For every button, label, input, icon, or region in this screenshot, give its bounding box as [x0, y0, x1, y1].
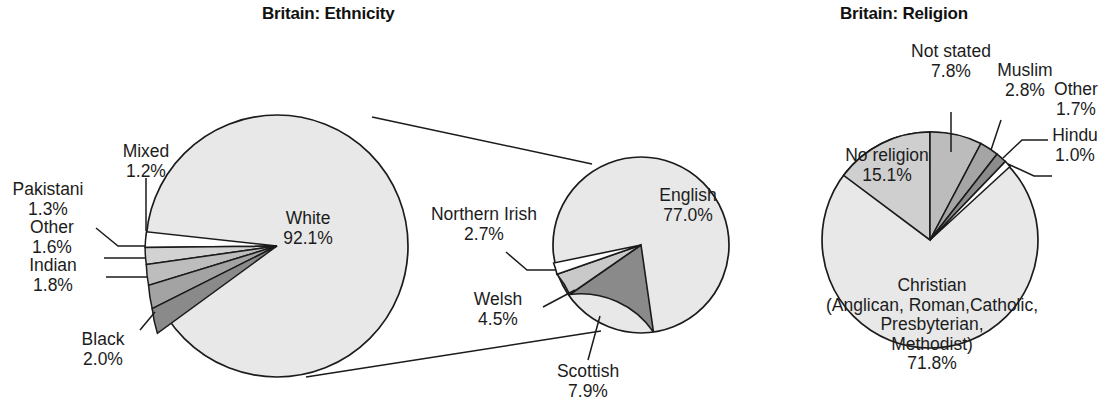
chart-title-religion: Britain: Religion [840, 4, 968, 24]
explosion-connector-top [372, 117, 592, 164]
label-white-value: 92.1% [260, 229, 356, 249]
label-northern-irish: Northern Irish 2.7% [410, 205, 558, 244]
label-black-text: Black [82, 329, 125, 349]
label-mixed-value: 1.2% [94, 162, 198, 182]
label-indian: Indian 1.8% [4, 256, 102, 295]
figure-canvas: Britain: Ethnicity Britain: Religion Mix… [0, 0, 1108, 420]
label-pakistani: Pakistani 1.3% [0, 180, 100, 219]
label-muslim-text: Muslim [997, 60, 1052, 80]
label-no-religion-value: 15.1% [822, 166, 952, 186]
leader-muslim [991, 120, 1001, 150]
label-mixed: Mixed 1.2% [94, 142, 198, 181]
label-other-religion: Other 1.7% [1044, 80, 1108, 119]
label-other-ethnicity-text: Other [30, 217, 74, 237]
label-scottish-text: Scottish [557, 361, 619, 381]
label-mixed-text: Mixed [123, 141, 170, 161]
chart-title-ethnicity: Britain: Ethnicity [262, 4, 394, 24]
label-welsh-value: 4.5% [454, 310, 542, 330]
label-christian: Christian (Anglican, Roman,Catholic, Pre… [820, 276, 1044, 374]
label-hindu-value: 1.0% [1042, 146, 1108, 166]
label-other-ethnicity: Other 1.6% [4, 218, 100, 257]
label-english: English 77.0% [640, 186, 736, 225]
label-hindu: Hindu 1.0% [1042, 126, 1108, 165]
label-not-stated-text: Not stated [911, 41, 991, 61]
label-northern-irish-text: Northern Irish [431, 204, 537, 224]
leader-northern-irish [506, 252, 556, 270]
label-black: Black 2.0% [56, 330, 150, 369]
label-indian-value: 1.8% [4, 276, 102, 296]
label-christian-line1: Christian [820, 276, 1044, 296]
label-no-religion: No religion 15.1% [822, 146, 952, 185]
label-indian-text: Indian [29, 255, 77, 275]
label-christian-line3: Presbyterian, [820, 315, 1044, 335]
label-pakistani-text: Pakistani [12, 179, 83, 199]
leader-black [140, 312, 155, 330]
label-hindu-text: Hindu [1052, 125, 1098, 145]
label-english-value: 77.0% [640, 206, 736, 226]
label-white-text: White [286, 208, 331, 228]
label-scottish-value: 7.9% [540, 382, 636, 402]
label-black-value: 2.0% [56, 350, 150, 370]
label-no-religion-text: No religion [845, 145, 929, 165]
leader-pakistani [96, 228, 145, 246]
label-scottish: Scottish 7.9% [540, 362, 636, 401]
label-christian-value: 71.8% [820, 354, 1044, 374]
label-white: White 92.1% [260, 209, 356, 248]
leader-scottish [588, 316, 600, 360]
label-welsh-text: Welsh [474, 289, 522, 309]
label-christian-line4: Methodist) [820, 335, 1044, 355]
label-other-religion-text: Other [1054, 79, 1098, 99]
label-christian-line2: (Anglican, Roman,Catholic, [820, 296, 1044, 316]
label-english-text: English [659, 185, 716, 205]
label-northern-irish-value: 2.7% [410, 225, 558, 245]
label-other-religion-value: 1.7% [1044, 100, 1108, 120]
label-welsh: Welsh 4.5% [454, 290, 542, 329]
